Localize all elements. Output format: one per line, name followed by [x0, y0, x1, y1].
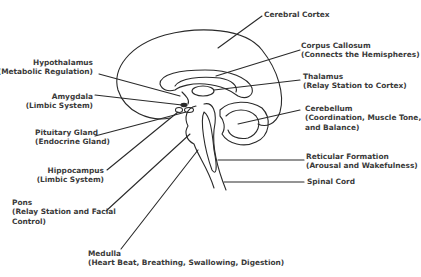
label-corpus-callosum: Corpus Callosum (Connects the Hemisphere…	[301, 41, 420, 60]
leader-hypothalamus	[99, 74, 180, 96]
corpus-callosum-outline	[160, 70, 252, 98]
label-pons: Pons (Relay Station and Facial Control)	[12, 198, 116, 226]
leader-medulla	[121, 150, 198, 249]
thalamus-shape	[192, 86, 214, 96]
leader-hippocampus	[107, 112, 178, 170]
label-hippocampus: Hippocampus (Limbic System)	[37, 166, 104, 185]
label-cerebral-cortex: Cerebral Cortex	[264, 10, 330, 19]
leader-corpus-callosum	[216, 50, 300, 76]
leader-cerebellum	[238, 110, 300, 124]
label-cerebellum: Cerebellum (Coordination, Muscle Tone, a…	[305, 104, 421, 132]
label-medulla: Medulla (Heart Beat, Breathing, Swallowi…	[88, 249, 284, 268]
label-hypothalamus: Hypothalamus (Metabolic Regulation)	[0, 58, 93, 77]
brainstem-outline	[186, 106, 214, 188]
label-reticular-formation: Reticular Formation (Arousal and Wakeful…	[306, 152, 418, 171]
leader-thalamus	[214, 80, 300, 90]
hippocampus-shape	[176, 108, 183, 113]
label-thalamus: Thalamus (Relay Station to Cortex)	[303, 72, 407, 91]
label-spinal-cord: Spinal Cord	[307, 177, 355, 186]
label-amygdala: Amygdala (Limbic System)	[26, 92, 93, 111]
label-pituitary-gland: Pituitary Gland (Endocrine Gland)	[35, 128, 110, 147]
leader-pons	[106, 134, 190, 211]
leader-amygdala	[95, 95, 182, 105]
